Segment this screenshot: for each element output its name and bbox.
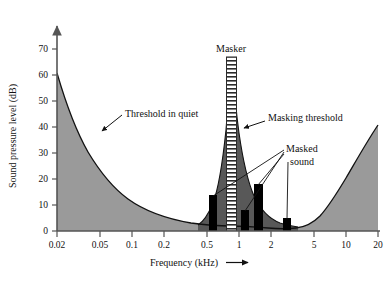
y-tick-label-30: 30 (39, 148, 49, 158)
y-tick-label-50: 50 (39, 96, 49, 106)
x-tick-label-0p5: 0.5 (201, 240, 213, 250)
figure-masking-threshold: 0 10 20 30 40 50 60 70 0.02 0.05 0.1 (0, 0, 384, 283)
masked-sound-bar-2 (241, 210, 249, 231)
masked-sound-bar-4 (283, 218, 291, 231)
annotation-threshold-in-quiet-leader-icon (102, 115, 122, 131)
annotation-threshold-in-quiet-label: Threshold in quiet (125, 108, 199, 119)
x-tick-label-0p02: 0.02 (49, 240, 66, 250)
x-axis-tick-labels: 0.02 0.05 0.1 0.2 0.5 1 2 5 10 20 (49, 240, 383, 250)
annotation-masking-threshold-leader-icon (244, 121, 265, 128)
y-axis-title: Sound pressure level (dB) (7, 84, 19, 188)
annotation-masking-threshold-label: Masking threshold (268, 112, 343, 123)
x-tick-label-0p2: 0.2 (158, 240, 170, 250)
y-tick-label-10: 10 (39, 200, 49, 210)
x-axis-title: Frequency (kHz) (150, 257, 218, 269)
y-tick-label-60: 60 (39, 70, 49, 80)
y-tick-label-40: 40 (39, 122, 49, 132)
x-tick-label-20: 20 (373, 240, 383, 250)
annotation-masked-sound-label-line2: sound (290, 156, 314, 167)
x-tick-label-10: 10 (341, 240, 351, 250)
annotation-masker-label: Masker (216, 43, 247, 54)
y-axis-tick-labels: 0 10 20 30 40 50 60 70 (39, 44, 49, 236)
x-tick-label-1: 1 (237, 240, 242, 250)
chart-canvas: 0 10 20 30 40 50 60 70 0.02 0.05 0.1 (0, 0, 384, 283)
y-tick-label-20: 20 (39, 174, 49, 184)
masker-bar (227, 57, 237, 231)
x-axis-ticks (57, 231, 378, 237)
y-tick-label-0: 0 (43, 226, 48, 236)
x-tick-label-0p05: 0.05 (92, 240, 109, 250)
x-tick-label-5: 5 (312, 240, 317, 250)
annotation-masked-sound-label-line1: Masked (286, 143, 318, 154)
y-tick-label-70: 70 (39, 44, 49, 54)
masked-sound-bar-1 (209, 195, 217, 231)
x-tick-label-0p1: 0.1 (126, 240, 138, 250)
x-tick-label-2: 2 (269, 240, 274, 250)
